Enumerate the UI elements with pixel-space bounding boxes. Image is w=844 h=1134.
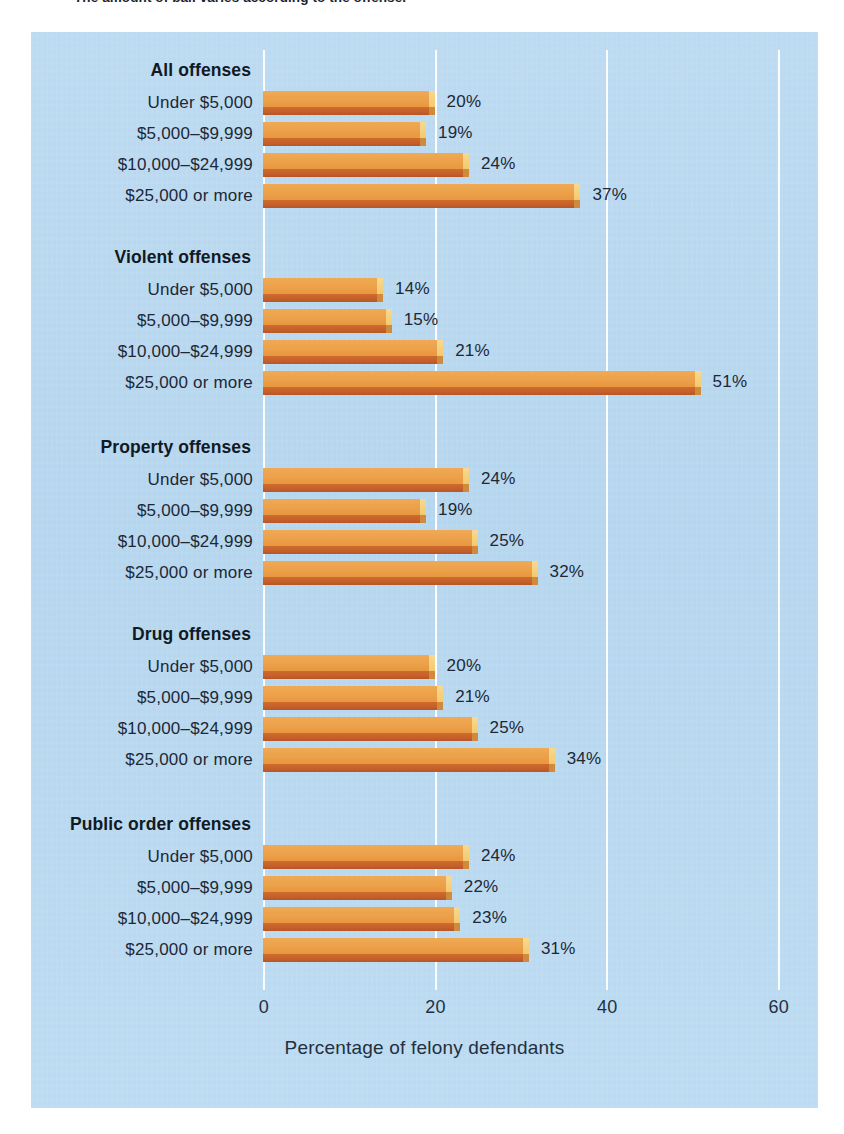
bar-end-cap-shadow <box>549 764 555 772</box>
x-tick-label-20: 20 <box>425 997 446 1018</box>
bar-category-label: Under $5,000 <box>31 847 253 867</box>
bar-end-cap-shadow <box>523 954 529 962</box>
bar-end-cap <box>472 717 478 733</box>
bar-row: $5,000–$9,99921% <box>31 685 818 712</box>
bar-front-face <box>263 546 478 554</box>
bar-top-face <box>263 122 426 138</box>
bar-end-cap <box>437 686 443 702</box>
bar-category-label: $10,000–$24,999 <box>31 909 253 929</box>
bar-top-face <box>263 468 469 484</box>
bar-end-cap <box>420 499 426 515</box>
bar-front-face <box>263 733 478 741</box>
bar-category-label: $25,000 or more <box>31 563 253 583</box>
bar-category-label: $10,000–$24,999 <box>31 342 253 362</box>
bar-category-label: Under $5,000 <box>31 93 253 113</box>
bar-end-cap <box>454 907 460 923</box>
bar <box>263 91 435 116</box>
bar-category-label: $25,000 or more <box>31 373 253 393</box>
bar-row: $5,000–$9,99919% <box>31 121 818 148</box>
bar-end-cap <box>532 561 538 577</box>
bar <box>263 876 452 901</box>
bar-front-face <box>263 577 538 585</box>
bar <box>263 184 580 209</box>
bar-top-face <box>263 876 452 892</box>
bar-top-face <box>263 184 580 200</box>
page-caption: The amount of bail varies according to t… <box>74 0 406 5</box>
bar-value-label: 25% <box>490 531 525 551</box>
bar-value-label: 14% <box>395 279 430 299</box>
bar <box>263 748 555 773</box>
bar-value-label: 24% <box>481 846 516 866</box>
bar-end-cap <box>523 938 529 954</box>
bar-category-label: $5,000–$9,999 <box>31 878 253 898</box>
bar-row: $10,000–$24,99925% <box>31 529 818 556</box>
bar-end-cap <box>446 876 452 892</box>
bar <box>263 561 538 586</box>
bar-front-face <box>263 923 460 931</box>
bar-front-face <box>263 515 426 523</box>
bar-end-cap-shadow <box>437 702 443 710</box>
bar-top-face <box>263 655 435 671</box>
bar <box>263 655 435 680</box>
bar-value-label: 21% <box>455 687 490 707</box>
bar-value-label: 22% <box>464 877 499 897</box>
bar-row: $10,000–$24,99925% <box>31 716 818 743</box>
bar-row: Under $5,00020% <box>31 90 818 117</box>
bar-row: $5,000–$9,99915% <box>31 308 818 335</box>
bar-category-label: $25,000 or more <box>31 940 253 960</box>
offense-group: Public order offensesUnder $5,00024%$5,0… <box>31 814 818 968</box>
bar-top-face <box>263 309 392 325</box>
bar-front-face <box>263 200 580 208</box>
bar-front-face <box>263 484 469 492</box>
bar-end-cap-shadow <box>463 861 469 869</box>
bar-row: $25,000 or more51% <box>31 370 818 397</box>
bar-value-label: 34% <box>567 749 602 769</box>
bar <box>263 309 392 334</box>
bar-top-face <box>263 91 435 107</box>
bar-top-face <box>263 499 426 515</box>
bar <box>263 122 426 147</box>
group-title: Public order offenses <box>31 814 251 835</box>
bar-end-cap-shadow <box>446 892 452 900</box>
bar-top-face <box>263 530 478 546</box>
bar <box>263 686 443 711</box>
bar-front-face <box>263 702 443 710</box>
x-tick-label-0: 0 <box>259 997 269 1018</box>
bar-front-face <box>263 138 426 146</box>
bar-front-face <box>263 325 392 333</box>
bar-value-label: 25% <box>490 718 525 738</box>
bar-row: $5,000–$9,99919% <box>31 498 818 525</box>
bar-row: $25,000 or more32% <box>31 560 818 587</box>
bar-end-cap-shadow <box>437 356 443 364</box>
bar-value-label: 23% <box>472 908 507 928</box>
bar-row: $25,000 or more34% <box>31 747 818 774</box>
bar-row: $5,000–$9,99922% <box>31 875 818 902</box>
bar-value-label: 19% <box>438 500 473 520</box>
bar-top-face <box>263 938 529 954</box>
bar-category-label: $5,000–$9,999 <box>31 311 253 331</box>
bar-end-cap <box>420 122 426 138</box>
bar-end-cap-shadow <box>532 577 538 585</box>
bar-end-cap <box>463 468 469 484</box>
group-title: All offenses <box>31 60 251 81</box>
bar-end-cap <box>549 748 555 764</box>
bar-end-cap-shadow <box>429 107 435 115</box>
bar-value-label: 24% <box>481 469 516 489</box>
bar-category-label: $5,000–$9,999 <box>31 688 253 708</box>
offense-group: All offensesUnder $5,00020%$5,000–$9,999… <box>31 60 818 214</box>
bar-top-face <box>263 561 538 577</box>
bar <box>263 845 469 870</box>
bar-value-label: 37% <box>592 185 627 205</box>
bar-top-face <box>263 845 469 861</box>
bar <box>263 938 529 963</box>
bar <box>263 278 383 303</box>
bar-row: $10,000–$24,99924% <box>31 152 818 179</box>
bar-category-label: $25,000 or more <box>31 186 253 206</box>
group-title: Violent offenses <box>31 247 251 268</box>
bar-row: $25,000 or more37% <box>31 183 818 210</box>
offense-group: Drug offensesUnder $5,00020%$5,000–$9,99… <box>31 624 818 778</box>
bar-end-cap-shadow <box>472 733 478 741</box>
bar-category-label: Under $5,000 <box>31 470 253 490</box>
bar-end-cap-shadow <box>429 671 435 679</box>
bar-category-label: $25,000 or more <box>31 750 253 770</box>
